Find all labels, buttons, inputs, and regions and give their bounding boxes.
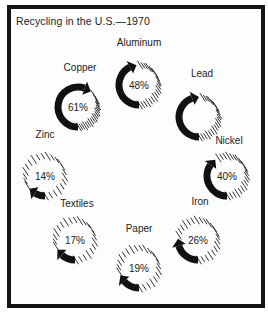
material-label: Zinc bbox=[36, 129, 55, 140]
gauge-copper: 61%Copper bbox=[58, 62, 101, 131]
percent-label: 40% bbox=[217, 171, 237, 182]
material-label: Nickel bbox=[215, 135, 242, 146]
percent-label: 17% bbox=[65, 235, 85, 246]
percent-label: 26% bbox=[188, 235, 208, 246]
gauge-aluminum: 48%Aluminum bbox=[117, 37, 162, 109]
recycled-arc bbox=[124, 281, 139, 288]
recycled-arc bbox=[179, 98, 199, 137]
gauge-textiles: 17%Textiles bbox=[53, 198, 97, 264]
material-label: Copper bbox=[64, 62, 97, 73]
material-label: Iron bbox=[191, 196, 208, 207]
recycled-arc bbox=[35, 193, 45, 196]
material-label: Lead bbox=[191, 68, 213, 79]
material-label: Textiles bbox=[60, 198, 93, 209]
gauge-iron: 26%Iron bbox=[172, 196, 220, 264]
percent-label: 14% bbox=[35, 171, 55, 182]
gauge-nickel: 40%Nickel bbox=[205, 135, 250, 200]
percent-label: 61% bbox=[68, 102, 88, 113]
recycled-arc bbox=[179, 246, 198, 260]
gauge-zinc: 14%Zinc bbox=[23, 129, 68, 200]
material-label: Paper bbox=[126, 223, 153, 234]
material-label: Aluminum bbox=[117, 37, 161, 48]
percent-label: 48% bbox=[129, 80, 149, 91]
hatch-remainder bbox=[197, 93, 222, 141]
percent-label: 19% bbox=[129, 263, 149, 274]
gauge-lead: Lead bbox=[179, 68, 222, 141]
gauge-paper: 19%Paper bbox=[117, 223, 162, 292]
chart-plot: 48%AluminumLead40%Nickel26%Iron19%Paper1… bbox=[0, 0, 268, 314]
